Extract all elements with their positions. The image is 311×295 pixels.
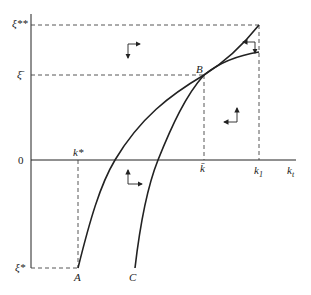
diagram-canvas xyxy=(0,0,311,295)
label-xi-bar: ξ̄ xyxy=(17,69,22,80)
label-point-b: B xyxy=(196,64,203,75)
label-k-star: k* xyxy=(73,147,83,158)
label-xi-star: ξ* xyxy=(15,262,25,273)
arrow-upper-right xyxy=(243,42,255,53)
phase-diagram: ξ** ξ̄ 0 ξ* k* k̄ k1 kt A B C xyxy=(0,0,311,295)
label-point-a: A xyxy=(74,272,81,283)
curve-a xyxy=(78,25,259,268)
label-xi-double-star: ξ** xyxy=(12,18,28,29)
label-kt: kt xyxy=(287,165,294,179)
label-kt-sub: t xyxy=(292,170,294,179)
label-k1: k1 xyxy=(254,165,263,179)
label-k-bar: k̄ xyxy=(200,163,205,174)
label-point-c: C xyxy=(129,272,136,283)
arrow-lower-middle xyxy=(128,170,142,184)
label-k1-sub: 1 xyxy=(259,170,263,179)
arrow-right-middle xyxy=(224,108,237,122)
arrow-upper-left xyxy=(128,44,140,58)
label-origin: 0 xyxy=(18,155,24,166)
